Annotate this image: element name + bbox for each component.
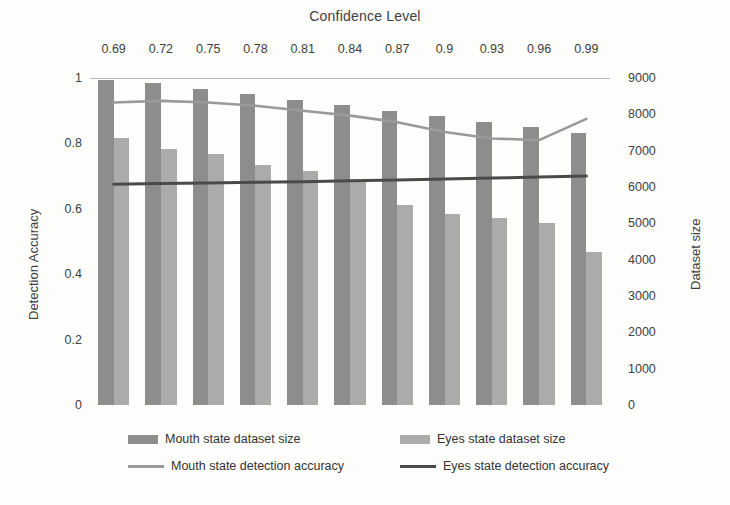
category-label: 0.87 [385, 42, 409, 56]
right-axis-tick-label: 5000 [628, 216, 656, 230]
legend-item[interactable]: Mouth state detection accuracy [128, 459, 344, 473]
right-axis-tick-label: 6000 [628, 180, 656, 194]
category-label: 0.96 [527, 42, 551, 56]
right-axis-tick-label: 8000 [628, 107, 656, 121]
chart-legend: Mouth state dataset sizeEyes state datas… [0, 432, 730, 494]
legend-item[interactable]: Mouth state dataset size [128, 432, 301, 446]
left-axis-tick-label: 0 [38, 398, 82, 412]
category-label: 0.75 [196, 42, 220, 56]
chart-title: Confidence Level [0, 8, 730, 24]
left-axis-tick-label: 0.2 [38, 333, 82, 347]
right-axis-tick-label: 3000 [628, 289, 656, 303]
category-label: 0.69 [101, 42, 125, 56]
plot-area [90, 78, 610, 405]
chart-container: Confidence Level 0.690.720.750.780.810.8… [0, 0, 730, 505]
legend-swatch-bar-icon [128, 435, 158, 444]
left-axis-title: Detection Accuracy [26, 209, 41, 320]
legend-item[interactable]: Eyes state detection accuracy [400, 459, 609, 473]
right-axis-tick-label: 7000 [628, 144, 656, 158]
legend-swatch-bar-icon [400, 435, 430, 444]
left-axis-tick-label: 0.4 [38, 267, 82, 281]
left-axis-tick-label: 0.6 [38, 202, 82, 216]
legend-label: Mouth state dataset size [165, 432, 301, 446]
category-label: 0.9 [436, 42, 453, 56]
legend-swatch-line-icon [128, 465, 164, 468]
category-label: 0.81 [291, 42, 315, 56]
right-axis-tick-label: 2000 [628, 325, 656, 339]
left-axis-tick-label: 1 [38, 71, 82, 85]
line-series-layer [90, 78, 610, 405]
legend-swatch-line-icon [400, 465, 436, 468]
category-label: 0.93 [480, 42, 504, 56]
legend-label: Eyes state detection accuracy [443, 459, 609, 473]
category-label: 0.84 [338, 42, 362, 56]
category-axis: 0.690.720.750.780.810.840.870.90.930.960… [90, 42, 610, 60]
right-axis-tick-label: 0 [628, 398, 635, 412]
legend-label: Mouth state detection accuracy [171, 459, 344, 473]
category-label: 0.72 [149, 42, 173, 56]
right-axis-tick-label: 1000 [628, 362, 656, 376]
line-mouth-detection-accuracy [114, 101, 587, 140]
left-axis-tick-label: 0.8 [38, 136, 82, 150]
legend-label: Eyes state dataset size [437, 432, 566, 446]
right-axis-title: Dataset size [688, 218, 703, 290]
line-eyes-detection-accuracy [114, 176, 587, 184]
category-label: 0.78 [243, 42, 267, 56]
right-axis-tick-label: 9000 [628, 71, 656, 85]
category-label: 0.99 [574, 42, 598, 56]
right-axis-tick-label: 4000 [628, 253, 656, 267]
legend-item[interactable]: Eyes state dataset size [400, 432, 566, 446]
